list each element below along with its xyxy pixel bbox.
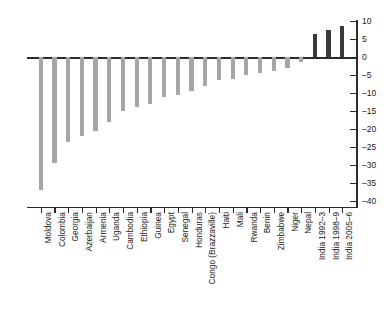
- bar: [107, 57, 111, 122]
- y-axis-tick-label: –30: [362, 161, 376, 170]
- y-axis-tick-label: –5: [362, 71, 371, 80]
- category-label: Zimbabwe: [277, 212, 285, 250]
- category-tick: [329, 207, 330, 213]
- bar: [52, 57, 56, 163]
- y-axis-tick: [350, 21, 356, 22]
- category-label: India 1992–3: [318, 212, 326, 260]
- y-axis-tick-label: –40: [362, 197, 376, 206]
- y-axis-tick-label: –15: [362, 107, 376, 116]
- y-axis-tick-label: –20: [362, 125, 376, 134]
- bar: [326, 30, 330, 57]
- category-tick: [82, 207, 83, 213]
- bar: [66, 57, 70, 142]
- category-label: India 2005–6: [345, 212, 353, 260]
- category-label: Niger: [291, 212, 299, 232]
- y-axis-tick-label: 5: [362, 35, 367, 44]
- y-axis-tick: [350, 75, 356, 76]
- category-tick: [137, 207, 138, 213]
- category-label: Congo (Brazzaville): [208, 212, 216, 284]
- bar: [176, 57, 180, 95]
- bar: [189, 57, 193, 91]
- category-label: Moldova: [44, 212, 52, 243]
- category-label: Egypt: [167, 212, 175, 233]
- bar: [299, 57, 303, 62]
- y-axis-tick: [350, 39, 356, 40]
- category-label: Ethiopia: [140, 212, 148, 242]
- y-axis-tick: [350, 183, 356, 184]
- category-label: Colombia: [58, 212, 66, 247]
- category-tick: [233, 207, 234, 213]
- category-tick: [192, 207, 193, 213]
- bar: [93, 57, 97, 131]
- category-label: Benin: [263, 212, 271, 233]
- y-axis-tick-label: 0: [362, 53, 367, 62]
- category-tick: [96, 207, 97, 213]
- bar-chart: 1050–5–10–15–20–25–30–35–40 MoldovaColom…: [0, 0, 391, 314]
- category-tick: [178, 207, 179, 213]
- category-tick: [150, 207, 151, 213]
- category-tick: [123, 207, 124, 213]
- y-axis-tick: [350, 93, 356, 94]
- category-label: Honduras: [195, 212, 203, 248]
- category-label: Cambodia: [126, 212, 134, 250]
- y-axis-tick-label: –35: [362, 179, 376, 188]
- category-label: Armenia: [99, 212, 107, 243]
- category-label: Senegal: [181, 212, 189, 242]
- category-label: Guinea: [154, 212, 162, 239]
- y-axis-tick-label: –10: [362, 89, 376, 98]
- category-tick: [219, 207, 220, 213]
- bar: [244, 57, 248, 75]
- bar: [231, 57, 235, 79]
- category-tick: [274, 207, 275, 213]
- category-label: Nepal: [304, 212, 312, 234]
- bar: [258, 57, 262, 73]
- y-axis-tick: [350, 147, 356, 148]
- y-axis-tick: [350, 111, 356, 112]
- category-label: India 1998–9: [332, 212, 340, 260]
- bar: [148, 57, 152, 104]
- y-axis-tick: [350, 165, 356, 166]
- bar: [121, 57, 125, 111]
- bar: [203, 57, 207, 86]
- category-tick: [54, 207, 55, 213]
- category-label: Georgia: [71, 212, 79, 242]
- category-label: Uganda: [112, 212, 120, 241]
- category-tick: [41, 207, 42, 213]
- plot-area: [27, 14, 357, 208]
- y-axis-line: [356, 20, 358, 208]
- category-tick: [315, 207, 316, 213]
- bar: [217, 57, 221, 80]
- bar: [340, 26, 344, 57]
- bar: [80, 57, 84, 136]
- category-label: Mali: [236, 212, 244, 227]
- y-axis-tick: [350, 201, 356, 202]
- category-label: Rwanda: [250, 212, 258, 242]
- bar: [285, 57, 289, 68]
- bar: [135, 57, 139, 107]
- y-axis-tick: [350, 57, 356, 58]
- bar: [313, 34, 317, 57]
- category-label: Haiti: [222, 212, 230, 229]
- bar: [39, 57, 43, 190]
- y-axis-tick: [350, 129, 356, 130]
- category-label: Azerbaijan: [85, 212, 93, 251]
- y-axis-tick-label: –25: [362, 143, 376, 152]
- category-tick: [246, 207, 247, 213]
- category-tick: [287, 207, 288, 213]
- bar: [162, 57, 166, 97]
- y-axis-tick-label: 10: [362, 17, 371, 26]
- bar: [272, 57, 276, 71]
